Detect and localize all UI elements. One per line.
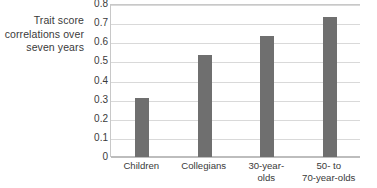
bar-chart-figure: Trait score correlations over seven year… [0,0,377,188]
x-tick-label-line: Collegians [173,160,235,172]
y-axis-title-line-3: seven years [0,41,84,55]
y-tick-label-0-7: 0.7 [84,18,108,28]
y-axis-title-line-1: Trait score [0,14,84,28]
y-tick-label-0-2: 0.2 [84,114,108,124]
y-tick-label-0-1: 0.1 [84,133,108,143]
bar-children [135,98,149,157]
bar-collegians [198,55,212,157]
bar-30-year-olds [260,36,274,157]
x-tick-label-line: olds [235,172,297,184]
y-tick-label-0: 0 [84,152,108,162]
x-tick-label-line: 50- to [298,160,360,172]
x-tick-label-line: Children [110,160,172,172]
x-tick-label-line: 70-year-olds [298,172,360,184]
x-tick-label-50-to-70-year-olds: 50- to70-year-olds [298,160,360,183]
y-tick-label-0-8: 0.8 [84,0,108,9]
x-tick-label-30-year-olds: 30-year-olds [235,160,297,183]
x-tick-label-collegians: Collegians [173,160,235,172]
y-axis-title-line-2: correlations over [0,28,84,42]
y-tick-label-0-6: 0.6 [84,37,108,47]
x-tick-label-line: 30-year- [235,160,297,172]
y-tick-label-0-5: 0.5 [84,56,108,66]
y-axis-tick-labels: 0.80.70.60.50.40.30.20.10 [84,0,108,188]
bar-50-to-70-year-olds [323,17,337,157]
x-tick-label-children: Children [110,160,172,172]
y-tick-label-0-4: 0.4 [84,76,108,86]
x-axis-tick-labels: ChildrenCollegians30-year-olds50- to70-y… [110,160,360,188]
y-tick-label-0-3: 0.3 [84,95,108,105]
bars-group [111,5,360,157]
plot-area [110,4,360,157]
y-axis-title: Trait score correlations over seven year… [0,14,84,55]
